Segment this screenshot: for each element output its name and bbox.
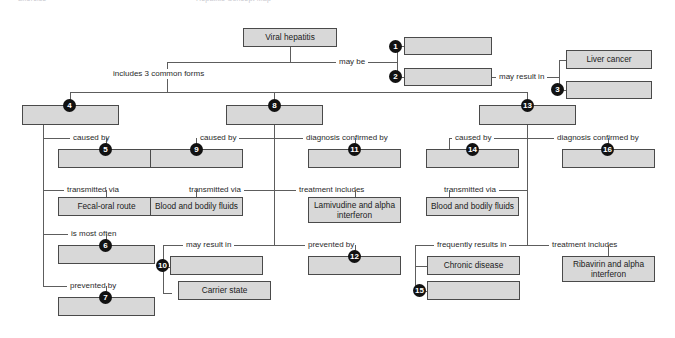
node-blank-10 <box>170 256 263 275</box>
node-ribavirin-alpha-interferon: Ribavirin and alpha interferon <box>562 256 655 282</box>
connector-b-treatment-drop <box>355 190 356 197</box>
node-blood-bodily-fluids-c: Blood and bodily fluids <box>426 197 519 216</box>
connector-root-stem <box>290 47 291 62</box>
connector-c-caused-by-drop <box>449 138 450 149</box>
connector-main-distribution-bus <box>70 92 527 93</box>
node-blank-1 <box>404 37 492 55</box>
badge-11: 11 <box>348 143 361 156</box>
connector-includes-bus-top <box>167 62 291 63</box>
label-is-most-often: is most often <box>68 229 119 239</box>
badge-7: 7 <box>99 291 112 304</box>
label-transmitted-via-a: transmitted via <box>64 185 122 195</box>
connector-c-treatment-drop <box>608 245 609 256</box>
node-liver-cancer: Liver cancer <box>566 50 652 69</box>
badge-4: 4 <box>63 99 76 112</box>
badge-10: 10 <box>156 259 169 272</box>
label-prevented-by-a: prevented by <box>67 281 119 291</box>
connector-branch-a-spine <box>43 125 44 286</box>
connector-c-transmitted-drop <box>449 190 450 197</box>
badge-8: 8 <box>268 99 281 112</box>
connector-b-transmitted-drop <box>196 190 197 197</box>
badge-16: 16 <box>601 143 614 156</box>
node-lamivudine-alpha-interferon: Lamivudine and alpha interferon <box>308 197 401 223</box>
badge-14: 14 <box>466 143 479 156</box>
node-viral-hepatitis: Viral hepatitis <box>243 28 337 47</box>
label-caused-by-b: caused by <box>197 133 239 143</box>
badge-6: 6 <box>99 239 112 252</box>
badge-3: 3 <box>551 83 564 96</box>
badge-13: 13 <box>521 99 534 112</box>
node-carrier-state: Carrier state <box>178 281 271 300</box>
node-blank-15 <box>427 281 520 300</box>
label-caused-by-c: caused by <box>452 133 494 143</box>
label-transmitted-via-b: transmitted via <box>186 185 244 195</box>
badge-2: 2 <box>389 70 402 83</box>
label-diagnosis-confirmed-by-b: diagnosis confirmed by <box>303 133 391 143</box>
connector-branch-b-spine <box>274 125 275 245</box>
badge-12: 12 <box>348 250 361 263</box>
label-may-result-in: may result in <box>496 72 547 82</box>
badge-5: 5 <box>99 143 112 156</box>
connector-a-transmitted-drop <box>106 190 107 197</box>
connector-to-carrier-state <box>163 293 172 294</box>
badge-9: 9 <box>190 143 203 156</box>
label-diagnosis-confirmed-by-c: diagnosis confirmed by <box>554 133 642 143</box>
label-prevented-by-b: prevented by <box>305 240 357 250</box>
header-left-text: Exercise <box>18 0 46 2</box>
node-blank-3 <box>566 81 652 99</box>
node-blank-2 <box>404 68 492 86</box>
node-chronic-disease: Chronic disease <box>427 256 520 275</box>
label-may-result-in-b: may result in <box>183 240 234 250</box>
label-includes-3-common-forms: includes 3 common forms <box>110 69 207 79</box>
node-blood-bodily-fluids-b: Blood and bodily fluids <box>150 197 243 216</box>
badge-1: 1 <box>389 40 402 53</box>
label-may-be: may be <box>336 57 368 67</box>
badge-15: 15 <box>413 284 426 297</box>
header-right-text: Hepatitis Concept Map <box>196 0 271 2</box>
label-frequently-results-in: frequently results in <box>434 240 509 250</box>
node-fecal-oral-route: Fecal-oral route <box>58 197 155 216</box>
label-treatment-includes-c: treatment includes <box>549 240 620 250</box>
label-treatment-includes-b: treatment includes <box>296 185 367 195</box>
concept-map-canvas: Exercise Hepatitis Concept Map Viral hep… <box>0 0 675 338</box>
connector-branch-c-spine <box>527 125 528 245</box>
